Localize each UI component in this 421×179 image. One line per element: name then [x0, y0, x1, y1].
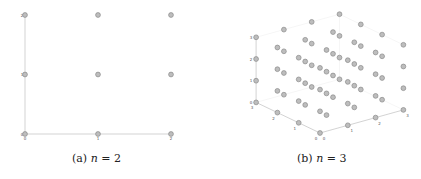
lattice-point — [296, 120, 301, 125]
y-axis — [320, 110, 403, 133]
lattice-point — [358, 87, 363, 92]
lattice-point — [373, 72, 378, 77]
lattice-point — [352, 62, 357, 67]
lattice-point — [380, 97, 385, 102]
z-tick-label: 2 — [250, 57, 253, 62]
lattice-point — [254, 35, 259, 40]
lattice-point — [303, 59, 308, 64]
lattice-point — [380, 54, 385, 59]
caption-a: (a) n = 2 — [72, 152, 121, 165]
lattice-point — [324, 48, 329, 53]
lattice-point — [169, 13, 174, 18]
lattice-point — [352, 83, 357, 88]
lattice-point — [331, 73, 336, 78]
lattice-point — [23, 72, 28, 77]
y-tick-label: 3 — [406, 113, 409, 118]
lattice-point — [169, 72, 174, 77]
lattice-point — [373, 115, 378, 120]
lattice-point — [303, 103, 308, 108]
lattice-point — [318, 109, 323, 114]
lattice-point — [282, 27, 287, 32]
lattice-point — [373, 50, 378, 55]
x-tick-label: 3 — [251, 105, 254, 110]
x-tick-label: 1 — [293, 126, 296, 131]
lattice-point — [331, 30, 336, 35]
lattice-point — [358, 44, 363, 49]
lattice-point — [358, 65, 363, 70]
caption-a-label: (a) — [72, 152, 87, 165]
lattice-point — [96, 132, 101, 137]
lattice-point — [96, 72, 101, 77]
lattice-point — [275, 45, 280, 50]
lattice-point — [331, 95, 336, 100]
lattice-point — [401, 42, 406, 47]
lattice-point — [345, 80, 350, 85]
lattice-point — [254, 100, 259, 105]
lattice-point — [318, 66, 323, 71]
x-tick-label: 1 — [97, 136, 100, 141]
lattice-point — [352, 105, 357, 110]
lattice-point — [296, 55, 301, 60]
lattice-point — [358, 22, 363, 27]
x-tick-label: 0 — [24, 136, 27, 141]
x-tick-label: 0 — [315, 136, 318, 141]
lattice-point — [352, 40, 357, 45]
lattice-point — [331, 51, 336, 56]
lattice-point — [282, 71, 287, 76]
lattice-point — [254, 78, 259, 83]
lattice-point — [303, 81, 308, 86]
lattice-point — [401, 108, 406, 113]
lattice-point — [254, 57, 259, 62]
lattice-point — [318, 87, 323, 92]
caption-b-value: = 3 — [323, 152, 346, 165]
lattice-point — [309, 20, 314, 25]
box-edge — [256, 14, 339, 37]
lattice-point — [96, 13, 101, 18]
lattice-point — [345, 101, 350, 106]
lattice-point — [324, 91, 329, 96]
lattice-point — [345, 123, 350, 128]
lattice-point — [309, 63, 314, 68]
z-tick-label: 1 — [250, 78, 253, 83]
panel-a-2d-lattice: 012012 (a) n = 2 — [0, 0, 210, 179]
x-tick-label: 2 — [272, 116, 275, 121]
lattice-point — [373, 94, 378, 99]
lattice-point — [337, 77, 342, 82]
z-tick-label: 0 — [250, 100, 253, 105]
lattice-point — [309, 41, 314, 46]
lattice-point — [345, 58, 350, 63]
lattice-point — [275, 67, 280, 72]
lattice-point — [282, 49, 287, 54]
lattice-point — [23, 13, 28, 18]
lattice-point — [296, 99, 301, 104]
lattice-point — [23, 132, 28, 137]
lattice-point — [380, 76, 385, 81]
lattice-point — [401, 64, 406, 69]
lattice-point — [337, 55, 342, 60]
lattice-point — [275, 110, 280, 115]
lattice-point — [318, 131, 323, 136]
lattice-point — [324, 69, 329, 74]
lattice-point — [303, 37, 308, 42]
lattice-point — [275, 89, 280, 94]
lattice-point — [309, 85, 314, 90]
caption-a-value: = 2 — [98, 152, 121, 165]
caption-b: (b) n = 3 — [297, 152, 346, 165]
y-tick-label: 2 — [378, 121, 381, 126]
y-tick-label: 0 — [323, 136, 326, 141]
lattice-point — [380, 32, 385, 37]
lattice-point — [337, 34, 342, 39]
lattice-point — [169, 132, 174, 137]
lattice-point — [337, 12, 342, 17]
lattice-point — [401, 86, 406, 91]
lattice-point — [296, 77, 301, 82]
lattice-point — [282, 92, 287, 97]
y-tick-label: 1 — [351, 128, 354, 133]
panel-b-3d-lattice: 012301230123 (b) n = 3 — [210, 0, 421, 179]
box-edge — [340, 14, 404, 45]
x-axis — [256, 102, 320, 133]
lattice-point — [324, 113, 329, 118]
caption-a-variable: n — [91, 152, 98, 165]
z-tick-label: 3 — [250, 35, 253, 40]
caption-b-label: (b) — [297, 152, 313, 165]
